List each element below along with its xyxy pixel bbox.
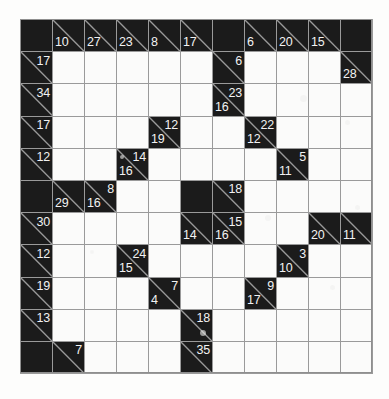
entry-cell[interactable] xyxy=(53,84,85,116)
entry-cell[interactable] xyxy=(309,245,341,277)
entry-cell[interactable] xyxy=(117,341,149,373)
entry-cell[interactable] xyxy=(309,341,341,373)
entry-cell[interactable] xyxy=(117,84,149,116)
entry-cell[interactable] xyxy=(277,341,309,373)
entry-cell[interactable] xyxy=(213,277,245,309)
entry-cell[interactable] xyxy=(85,84,117,116)
entry-cell[interactable] xyxy=(149,341,181,373)
entry-cell[interactable] xyxy=(277,84,309,116)
clue-cell: 2212 xyxy=(245,116,277,148)
entry-cell[interactable] xyxy=(117,309,149,341)
grid-row: 735 xyxy=(21,341,373,373)
entry-cell[interactable] xyxy=(149,180,181,212)
entry-cell[interactable] xyxy=(341,341,373,373)
entry-cell[interactable] xyxy=(117,52,149,84)
entry-cell[interactable] xyxy=(213,341,245,373)
entry-cell[interactable] xyxy=(309,52,341,84)
entry-cell[interactable] xyxy=(53,116,85,148)
entry-cell[interactable] xyxy=(245,213,277,245)
entry-cell[interactable] xyxy=(341,309,373,341)
entry-cell[interactable] xyxy=(245,148,277,180)
entry-cell[interactable] xyxy=(277,213,309,245)
entry-cell[interactable] xyxy=(341,277,373,309)
entry-cell[interactable] xyxy=(309,116,341,148)
down-clue-value: 16 xyxy=(215,101,229,114)
across-clue-value: 35 xyxy=(196,344,210,357)
entry-cell[interactable] xyxy=(181,116,213,148)
clue-cell: 20 xyxy=(309,213,341,245)
entry-cell[interactable] xyxy=(117,213,149,245)
entry-cell[interactable] xyxy=(181,84,213,116)
entry-cell[interactable] xyxy=(117,180,149,212)
entry-cell[interactable] xyxy=(53,309,85,341)
entry-cell[interactable] xyxy=(85,116,117,148)
entry-cell[interactable] xyxy=(341,84,373,116)
entry-cell[interactable] xyxy=(245,180,277,212)
entry-cell[interactable] xyxy=(277,309,309,341)
entry-cell[interactable] xyxy=(309,309,341,341)
entry-cell[interactable] xyxy=(309,180,341,212)
entry-cell[interactable] xyxy=(85,52,117,84)
kakuro-grid[interactable]: 1027238176201517628342316171219221212141… xyxy=(20,19,373,374)
entry-cell[interactable] xyxy=(277,180,309,212)
entry-cell[interactable] xyxy=(245,245,277,277)
clue-cell: 18 xyxy=(181,309,213,341)
down-clue-value: 15 xyxy=(119,262,133,275)
entry-cell[interactable] xyxy=(245,309,277,341)
entry-cell[interactable] xyxy=(309,277,341,309)
entry-cell[interactable] xyxy=(149,245,181,277)
entry-cell[interactable] xyxy=(181,277,213,309)
entry-cell[interactable] xyxy=(117,116,149,148)
entry-cell[interactable] xyxy=(149,213,181,245)
block-cell xyxy=(181,180,213,212)
entry-cell[interactable] xyxy=(53,52,85,84)
entry-cell[interactable] xyxy=(213,245,245,277)
clue-cell: 12 xyxy=(21,245,53,277)
entry-cell[interactable] xyxy=(85,245,117,277)
entry-cell[interactable] xyxy=(213,148,245,180)
entry-cell[interactable] xyxy=(85,148,117,180)
entry-cell[interactable] xyxy=(309,84,341,116)
clue-cell: 74 xyxy=(149,277,181,309)
entry-cell[interactable] xyxy=(85,341,117,373)
entry-cell[interactable] xyxy=(149,148,181,180)
entry-cell[interactable] xyxy=(277,277,309,309)
entry-cell[interactable] xyxy=(53,148,85,180)
clue-cell: 27 xyxy=(85,20,117,52)
clue-cell: 816 xyxy=(85,180,117,212)
entry-cell[interactable] xyxy=(85,277,117,309)
entry-cell[interactable] xyxy=(277,52,309,84)
entry-cell[interactable] xyxy=(277,116,309,148)
entry-cell[interactable] xyxy=(85,309,117,341)
entry-cell[interactable] xyxy=(309,148,341,180)
entry-cell[interactable] xyxy=(85,213,117,245)
across-clue-value: 15 xyxy=(228,216,242,229)
entry-cell[interactable] xyxy=(181,52,213,84)
entry-cell[interactable] xyxy=(213,116,245,148)
entry-cell[interactable] xyxy=(53,245,85,277)
entry-cell[interactable] xyxy=(149,84,181,116)
entry-cell[interactable] xyxy=(341,116,373,148)
entry-cell[interactable] xyxy=(53,213,85,245)
across-clue-value: 12 xyxy=(36,151,50,164)
entry-cell[interactable] xyxy=(341,180,373,212)
across-clue-value: 17 xyxy=(36,55,50,68)
clue-cell: 2316 xyxy=(213,84,245,116)
across-clue-value: 22 xyxy=(260,119,274,132)
entry-cell[interactable] xyxy=(341,148,373,180)
entry-cell[interactable] xyxy=(149,309,181,341)
entry-cell[interactable] xyxy=(213,309,245,341)
entry-cell[interactable] xyxy=(245,52,277,84)
entry-cell[interactable] xyxy=(53,277,85,309)
entry-cell[interactable] xyxy=(181,148,213,180)
across-clue-value: 18 xyxy=(196,312,210,325)
entry-cell[interactable] xyxy=(341,245,373,277)
entry-cell[interactable] xyxy=(245,341,277,373)
entry-cell[interactable] xyxy=(149,52,181,84)
entry-cell[interactable] xyxy=(245,84,277,116)
kakuro-puzzle: 1027238176201517628342316171219221212141… xyxy=(0,0,389,399)
kakuro-grid-body: 1027238176201517628342316171219221212141… xyxy=(21,20,373,374)
entry-cell[interactable] xyxy=(181,245,213,277)
entry-cell[interactable] xyxy=(117,277,149,309)
clue-cell: 34 xyxy=(21,84,53,116)
